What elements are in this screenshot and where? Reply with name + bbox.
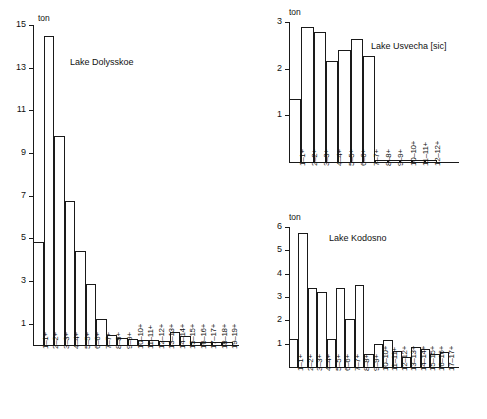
x-tick-label: 4–4+	[336, 149, 344, 166]
chart-lake-usvecha: ton Lake Usvecha [sic] 1231–1+2–2+3–3+4–…	[275, 0, 487, 205]
x-tick-label: 2–2+	[307, 354, 315, 371]
x-tick-label: 5–5+	[348, 149, 356, 166]
x-tick-label: 12–12+	[434, 141, 442, 166]
y-tick-plot3	[285, 320, 290, 321]
x-tick-label: 15–15+	[189, 324, 197, 349]
bar	[54, 136, 65, 345]
x-tick-label: 1–1+	[299, 149, 307, 166]
x-tick-label: 15–15+	[429, 346, 437, 371]
x-tick-label: 18–18+	[221, 324, 229, 349]
x-tick-label: 13–13+	[410, 346, 418, 371]
y-tick-label-plot2: 2	[263, 64, 282, 73]
bar	[298, 233, 307, 367]
y-tick-plot2	[285, 22, 290, 23]
bar	[301, 27, 313, 162]
x-tick-label: 8–8+	[385, 149, 393, 166]
x-tick-label: 14–14+	[179, 324, 187, 349]
x-tick-label: 19–19+	[231, 324, 239, 349]
x-tick-label: 1–1+	[42, 332, 50, 349]
y-tick-label-plot3: 2	[263, 315, 282, 324]
bar	[314, 32, 326, 162]
bar	[338, 50, 350, 162]
chart-lake-dolysskoe: ton Lake Dolysskoe 135791113151–1+2–2+3–…	[0, 0, 250, 419]
y-unit-label-chart2: ton	[289, 8, 301, 17]
y-tick-plot3	[285, 274, 290, 275]
x-tick-label: 2–2+	[311, 149, 319, 166]
x-tick-label: 1–1+	[297, 354, 305, 371]
y-tick-label-plot2: 1	[263, 110, 282, 119]
y-tick-plot3	[285, 250, 290, 251]
x-tick-label: 7–7+	[373, 149, 381, 166]
y-tick-plot2	[285, 69, 290, 70]
plot-area-chart1: 135791113151–1+2–2+3–3+4–4+5–5+6–6+7–7+8…	[33, 25, 233, 345]
y-tick-label-plot3: 5	[263, 245, 282, 254]
x-tick-label: 12–12+	[158, 324, 166, 349]
x-tick-label: 9–9+	[126, 332, 134, 349]
x-tick-label: 4–4+	[325, 354, 333, 371]
y-tick-label-plot3: 6	[263, 222, 282, 231]
y-unit-label-chart1: ton	[38, 14, 50, 23]
x-tick-label: 6–6+	[344, 354, 352, 371]
bar	[65, 201, 76, 345]
x-tick-label: 3–3+	[63, 332, 71, 349]
y-tick-plot1	[29, 153, 34, 154]
y-tick-plot3	[285, 297, 290, 298]
y-tick-label-plot3: 3	[263, 292, 282, 301]
x-tick-label: 4–4+	[73, 332, 81, 349]
y-tick-label-plot1: 7	[7, 191, 26, 200]
y-tick-plot1	[29, 68, 34, 69]
x-tick-label: 9–9+	[373, 354, 381, 371]
x-tick-label: 10–10+	[410, 141, 418, 166]
y-tick-label-plot1: 5	[7, 233, 26, 242]
bar	[44, 36, 55, 345]
y-tick-plot1	[29, 25, 34, 26]
bar	[363, 56, 375, 162]
plot-area-chart3: 1234561–1+2–2+3–3+4–4+5–5+6–6+7–7+8–8+9–…	[289, 227, 449, 367]
y-tick-plot1	[29, 196, 34, 197]
y-unit-label-chart3: ton	[289, 213, 301, 222]
x-tick-label: 3–3+	[323, 149, 331, 166]
x-tick-label: 16–16+	[200, 324, 208, 349]
x-tick-label: 11–11+	[422, 142, 430, 166]
bar	[75, 251, 86, 345]
x-tick-label: 10–10+	[137, 324, 145, 349]
y-tick-label-plot1: 9	[7, 148, 26, 157]
x-tick-label: 5–5+	[335, 354, 343, 371]
bar	[351, 39, 363, 162]
x-tick-label: 10–10+	[382, 346, 390, 371]
y-tick-label-plot1: 11	[7, 105, 26, 114]
y-tick-label-plot1: 15	[7, 20, 26, 29]
x-tick-label: 7–7+	[105, 332, 113, 349]
y-tick-label-plot1: 13	[7, 63, 26, 72]
y-tick-label-plot1: 3	[7, 276, 26, 285]
y-tick-label-plot1: 1	[7, 319, 26, 328]
x-tick-label: 17–17+	[448, 346, 456, 371]
x-tick-label: 3–3+	[316, 354, 324, 371]
bar	[326, 61, 338, 162]
x-tick-label: 5–5+	[84, 332, 92, 349]
bar	[33, 242, 44, 345]
plot-area-chart2: 1231–1+2–2+3–3+4–4+5–5+6–6+7–7+8–8+9–9+1…	[289, 22, 437, 162]
x-tick-label: 16–16+	[438, 346, 446, 371]
y-tick-label-plot3: 4	[263, 269, 282, 278]
x-tick-label: 2–2+	[52, 332, 60, 349]
x-tick-label: 12–12+	[401, 346, 409, 371]
y-tick-plot1	[29, 238, 34, 239]
x-tick-label: 7–7+	[354, 354, 362, 371]
x-tick-label: 13–13+	[168, 324, 176, 349]
x-tick-label: 11–11+	[391, 347, 399, 371]
x-tick-label: 9–9+	[397, 149, 405, 166]
y-tick-plot1	[29, 110, 34, 111]
x-tick-label: 6–6+	[94, 332, 102, 349]
x-tick-label: 11–11+	[147, 325, 155, 349]
x-tick-label: 14–14+	[420, 346, 428, 371]
y-tick-plot3	[285, 227, 290, 228]
x-tick-label: 8–8+	[115, 332, 123, 349]
x-tick-label: 8–8+	[363, 354, 371, 371]
y-tick-label-plot2: 3	[263, 17, 282, 26]
x-tick-label: 17–17+	[210, 324, 218, 349]
x-tick-label: 6–6+	[360, 149, 368, 166]
y-tick-label-plot3: 1	[263, 339, 282, 348]
chart-lake-kodosno: ton Lake Kodosno 1234561–1+2–2+3–3+4–4+5…	[275, 205, 487, 419]
